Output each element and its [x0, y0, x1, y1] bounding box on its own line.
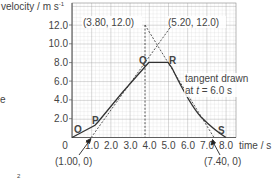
- clipped-text-fragment: e: [0, 94, 6, 105]
- tangent-label: tangent drawn at t = 6.0 s: [184, 73, 250, 97]
- x-tick-label: 4.0: [143, 140, 157, 151]
- x-tick-label: 2.0: [104, 140, 118, 151]
- y-tick-label: 12.0: [49, 20, 69, 31]
- annotation-1-00-0: (1.00, 0): [55, 156, 92, 167]
- y-tick-label: 10.0: [49, 38, 69, 49]
- x-axis-label: time / s: [239, 140, 271, 151]
- origin-label: 0: [62, 140, 68, 151]
- x-tick-label: 8.0: [219, 140, 233, 151]
- tangent-label-line2: at t = 6.0 s: [185, 85, 232, 96]
- annotation-7-40-0: (7.40, 0): [204, 156, 241, 167]
- point-label-p: P: [92, 115, 99, 126]
- x-tick-label: 6.0: [181, 140, 195, 151]
- y-tick-label: 6.0: [54, 76, 68, 87]
- annotation-3-80-12: (3.80, 12.0): [83, 17, 134, 28]
- point-label-o: O: [74, 124, 82, 135]
- velocity-time-chart: 12.0 10.0 8.0 6.0 4.0 2.0 0 1.0 2.0 3.0 …: [0, 0, 278, 184]
- point-label-q: Q: [139, 55, 147, 66]
- point-label-r: R: [169, 55, 177, 66]
- y-axis-label: velocity / m s-1: [1, 1, 65, 12]
- y-tick-label: 4.0: [54, 94, 68, 105]
- x-tick-label: 5.0: [162, 140, 176, 151]
- annotation-5-20-12: (5.20, 12.0): [168, 17, 219, 28]
- y-tick-labels: 12.0 10.0 8.0 6.0 4.0 2.0: [49, 20, 69, 125]
- tangent-label-line1: tangent drawn: [185, 73, 248, 84]
- clipped-text-fragment: 2: [17, 173, 21, 179]
- point-label-s: S: [218, 125, 225, 136]
- y-tick-label: 8.0: [54, 57, 68, 68]
- x-tick-label: 3.0: [124, 140, 138, 151]
- y-tick-label: 2.0: [54, 113, 68, 124]
